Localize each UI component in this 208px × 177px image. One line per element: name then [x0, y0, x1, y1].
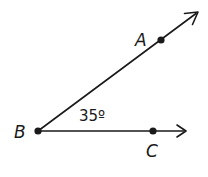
point-c-dot: [149, 127, 156, 134]
label-b: B: [14, 122, 26, 142]
ray-ba-line: [38, 14, 196, 132]
angle-measure-label: 35º: [79, 107, 105, 125]
label-c: C: [146, 141, 158, 161]
point-b-dot: [34, 127, 41, 134]
point-a-dot: [157, 36, 164, 43]
angle-diagram: A B C 35º: [0, 0, 208, 177]
label-a: A: [134, 30, 147, 50]
